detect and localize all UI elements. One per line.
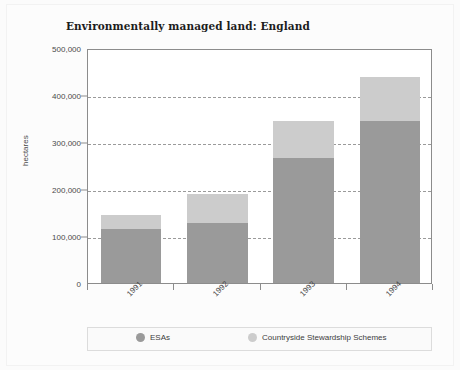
legend-item[interactable]: ESAs bbox=[136, 333, 170, 342]
bar-segment-countryside-stewardship bbox=[360, 77, 420, 121]
x-axis-tick-mark bbox=[260, 284, 261, 290]
bar-segment-esas bbox=[187, 223, 247, 283]
y-axis-tick-label: 500,000 bbox=[11, 45, 81, 54]
x-axis-tick-mark bbox=[346, 284, 347, 290]
chart-legend: ESAsCountryside Stewardship Schemes bbox=[87, 327, 432, 351]
legend-swatch-circle-icon bbox=[248, 333, 257, 342]
x-axis-tick-mark bbox=[87, 284, 88, 290]
bar-segment-esas bbox=[273, 158, 333, 283]
x-axis-tick-mark bbox=[173, 284, 174, 290]
bar-stack bbox=[187, 194, 247, 283]
y-axis-tick-label: 400,000 bbox=[11, 92, 81, 101]
bar-segment-countryside-stewardship bbox=[273, 121, 333, 158]
bar-stack bbox=[273, 121, 333, 283]
bar-segment-esas bbox=[360, 121, 420, 283]
legend-label: ESAs bbox=[150, 333, 170, 342]
bar-stack bbox=[360, 77, 420, 283]
legend-label: Countryside Stewardship Schemes bbox=[262, 333, 387, 342]
chart-figure: Environmentally managed land: England he… bbox=[0, 0, 460, 370]
bar-segment-countryside-stewardship bbox=[101, 215, 161, 229]
bar-segment-esas bbox=[101, 229, 161, 283]
plot-area bbox=[87, 49, 432, 284]
y-axis-tick-label: 300,000 bbox=[11, 139, 81, 148]
bar-stack bbox=[101, 215, 161, 283]
chart-title: Environmentally managed land: England bbox=[66, 20, 310, 32]
y-axis-tick-label: 200,000 bbox=[11, 186, 81, 195]
legend-item[interactable]: Countryside Stewardship Schemes bbox=[248, 333, 387, 342]
bar-segment-countryside-stewardship bbox=[187, 194, 247, 223]
y-axis-tick-label: 100,000 bbox=[11, 233, 81, 242]
y-axis-tick-label: 0 bbox=[11, 280, 81, 289]
legend-swatch-circle-icon bbox=[136, 333, 145, 342]
x-axis-tick-mark bbox=[432, 284, 433, 290]
